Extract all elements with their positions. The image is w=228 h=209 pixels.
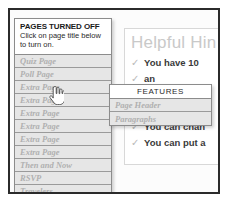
list-item[interactable]: Extra Page xyxy=(15,81,111,94)
list-item-label: Extra Page xyxy=(20,147,59,157)
features-panel: FEATURES Page Header Paragraphs xyxy=(109,84,212,126)
list-item-label: Quiz Page xyxy=(20,56,56,66)
list-item[interactable]: Extra Page xyxy=(15,133,111,146)
list-item[interactable]: Paragraphs xyxy=(110,112,211,125)
hint-item: ✓ an xyxy=(131,73,220,84)
hint-item: ✓ You have 10 xyxy=(131,57,220,68)
list-item-label: Paragraphs xyxy=(115,114,156,124)
list-item[interactable]: RSVP xyxy=(15,172,111,185)
list-item-label: Extra Page xyxy=(20,121,59,131)
check-icon: ✓ xyxy=(131,58,139,68)
list-item[interactable]: Then and Now xyxy=(15,159,111,172)
list-item[interactable]: Extra Page xyxy=(15,94,111,107)
list-item[interactable]: Page Header xyxy=(110,99,211,112)
list-item-label: Extra Page xyxy=(20,108,59,118)
list-item-label: Then and Now xyxy=(20,160,72,170)
hint-text: You have 10 xyxy=(144,57,199,68)
list-item[interactable]: Poll Page xyxy=(15,68,111,81)
list-item-label: Page Header xyxy=(115,100,161,110)
features-panel-title: FEATURES xyxy=(137,87,184,96)
pages-panel-subtitle: Click on page title below to turn on. xyxy=(20,32,107,50)
list-item-label: RSVP xyxy=(20,173,41,183)
list-item-label: Travelers xyxy=(20,186,53,194)
list-item[interactable]: Extra Page xyxy=(15,107,111,120)
list-item[interactable]: Extra Page xyxy=(15,120,111,133)
screenshot-frame: Helpful Hin ✓ You have 10 ✓ an ✓ n ✓ Eve… xyxy=(8,8,220,194)
hint-text: an xyxy=(144,73,155,84)
list-item[interactable]: Quiz Page xyxy=(15,55,111,68)
page-title: Helpful Hin xyxy=(131,33,216,53)
check-icon: ✓ xyxy=(131,74,139,84)
list-item[interactable]: Travelers xyxy=(15,185,111,194)
list-item-label: Poll Page xyxy=(20,69,54,79)
list-item-label: Extra Page xyxy=(20,82,59,92)
features-panel-header: FEATURES xyxy=(110,85,211,99)
list-item[interactable]: Extra Page xyxy=(15,146,111,159)
pages-panel-title: PAGES TURNED OFF xyxy=(20,22,107,31)
pages-turned-off-panel: PAGES TURNED OFF Click on page title bel… xyxy=(14,18,112,194)
hint-text: You can put a xyxy=(144,137,206,148)
list-item-label: Extra Page xyxy=(20,95,59,105)
canvas-area: Helpful Hin ✓ You have 10 ✓ an ✓ n ✓ Eve… xyxy=(10,10,218,192)
check-icon: ✓ xyxy=(131,138,139,148)
hint-item: ✓ You can put a xyxy=(131,137,220,148)
list-item-label: Extra Page xyxy=(20,134,59,144)
pages-panel-header: PAGES TURNED OFF Click on page title bel… xyxy=(15,19,111,55)
